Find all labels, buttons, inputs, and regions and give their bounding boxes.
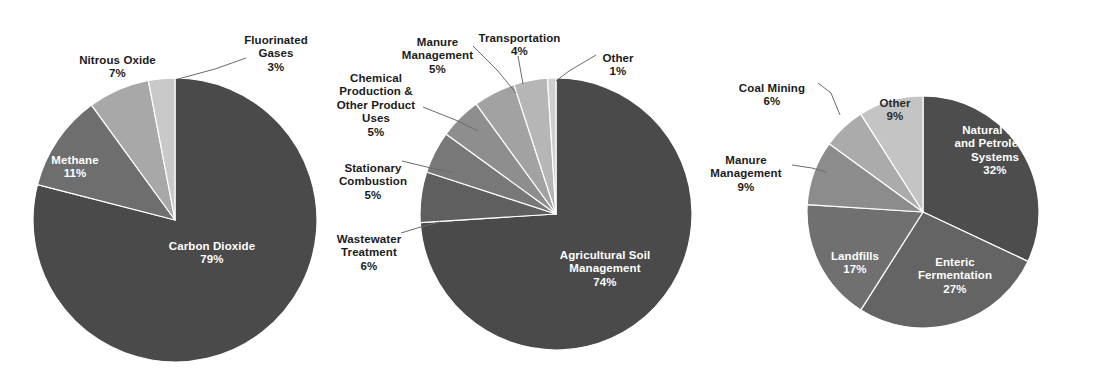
- pie1-label-carbon-dioxide-value: 79%: [152, 253, 272, 267]
- pie3-label-manure-management-name: Manure Management: [710, 154, 781, 180]
- three-pie-charts-figure: Nitrous Oxide 7% Fluorinated Gases 3% Me…: [0, 0, 1096, 375]
- pie2-label-other: Other 1%: [591, 38, 645, 92]
- pie2-label-other-value: 1%: [591, 65, 645, 79]
- pie2-label-stationary-combustion-value: 5%: [330, 189, 416, 203]
- pie3-label-landfills-name: Landfills: [831, 250, 879, 262]
- leader-line-coal-mining: [818, 83, 840, 115]
- pie3-label-coal-mining-value: 6%: [725, 95, 819, 109]
- pie2-label-transportation-name: Transportation: [479, 32, 561, 44]
- pie3-label-natural-gas-petroleum-name: Natural Gas and Petroleum Systems: [954, 124, 1035, 163]
- pie3-label-other-name: Other: [879, 97, 910, 109]
- pie3-label-enteric-fermentation: Enteric Fermentation 27%: [900, 242, 1010, 310]
- pie1-label-nitrous-oxide-value: 7%: [55, 67, 180, 81]
- pie2-label-chemical-production-name: Chemical Production & Other Product Uses: [337, 72, 416, 125]
- pie2-label-wastewater-treatment-name: Wastewater Treatment: [337, 233, 402, 259]
- pie2-label-wastewater-treatment-value: 6%: [325, 260, 413, 274]
- pie1-label-fluorinated-gases-value: 3%: [231, 61, 321, 75]
- pie3-label-landfills-value: 17%: [815, 263, 895, 277]
- pie2-label-agricultural-soil-management-name: Agricultural Soil Management: [560, 249, 651, 275]
- pie2-label-transportation-value: 4%: [472, 45, 567, 59]
- pie3-label-landfills: Landfills 17%: [815, 236, 895, 290]
- pie3-label-other: Other 9%: [862, 83, 928, 137]
- pie1-label-fluorinated-gases-name: Fluorinated Gases: [244, 34, 308, 60]
- pie2-label-chemical-production: Chemical Production & Other Product Uses…: [326, 58, 426, 153]
- pie1-label-methane-value: 11%: [35, 167, 115, 181]
- pie1-label-methane-name: Methane: [51, 154, 98, 166]
- pie3-label-manure-management-value: 9%: [700, 181, 792, 195]
- pie3-label-coal-mining-name: Coal Mining: [739, 82, 805, 94]
- pie3-label-coal-mining: Coal Mining 6%: [725, 68, 819, 122]
- pie2-label-stationary-combustion: Stationary Combustion 5%: [330, 148, 416, 216]
- pie3-label-enteric-fermentation-value: 27%: [900, 283, 1010, 297]
- pie2-label-stationary-combustion-name: Stationary Combustion: [339, 162, 407, 188]
- pie3-label-other-value: 9%: [862, 110, 928, 124]
- pie2-label-agricultural-soil-management: Agricultural Soil Management 74%: [540, 235, 670, 303]
- pie3-label-natural-gas-petroleum-value: 32%: [935, 164, 1055, 178]
- pie3-label-natural-gas-petroleum: Natural Gas and Petroleum Systems 32%: [935, 110, 1055, 191]
- pie1-label-fluorinated-gases: Fluorinated Gases 3%: [231, 20, 321, 88]
- pie2-label-transportation: Transportation 4%: [472, 18, 567, 72]
- pie1-label-carbon-dioxide-name: Carbon Dioxide: [169, 240, 255, 252]
- pie2-label-other-name: Other: [602, 52, 633, 64]
- pie1-label-carbon-dioxide: Carbon Dioxide 79%: [152, 226, 272, 280]
- pie1-label-methane: Methane 11%: [35, 140, 115, 194]
- pie1-label-nitrous-oxide-name: Nitrous Oxide: [79, 54, 156, 66]
- pie1-label-nitrous-oxide: Nitrous Oxide 7%: [55, 40, 180, 94]
- pie2-label-chemical-production-value: 5%: [326, 126, 426, 140]
- pie2-label-wastewater-treatment: Wastewater Treatment 6%: [325, 219, 413, 287]
- pie3-label-enteric-fermentation-name: Enteric Fermentation: [918, 256, 992, 282]
- pie2-label-agricultural-soil-management-value: 74%: [540, 276, 670, 290]
- pie3-label-manure-management: Manure Management 9%: [700, 140, 792, 208]
